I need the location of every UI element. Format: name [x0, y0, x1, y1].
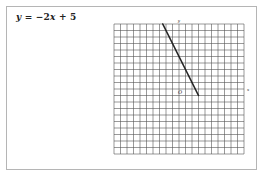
coordinate-plane: y x O: [0, 0, 264, 177]
origin-label: O: [178, 89, 182, 95]
plotted-line: [163, 24, 199, 96]
y-axis-label: y: [177, 18, 181, 23]
x-axis-label: x: [247, 87, 250, 92]
